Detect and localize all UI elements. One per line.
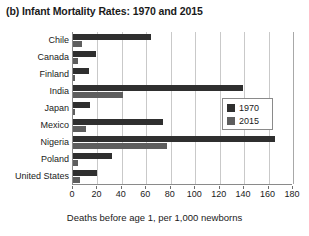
y-axis-label-india: India [49,83,69,100]
y-axis-label-finland: Finland [39,66,69,83]
y-axis-label-poland: Poland [41,151,69,168]
bar-canada-2015 [73,58,78,64]
x-tick-label-60: 60 [132,189,158,199]
bar-india-1970 [73,85,243,91]
legend-item-1970: 1970 [227,102,272,114]
bar-nigeria-2015 [73,143,167,149]
bar-group [73,134,292,151]
legend-item-2015: 2015 [227,115,272,127]
y-axis-label-mexico: Mexico [40,117,69,134]
bar-finland-1970 [73,68,89,74]
x-axis-title: Deaths before age 1, per 1,000 newborns [0,212,309,223]
legend-swatch-1970 [227,104,235,112]
bar-group [73,66,292,83]
legend-label-1970: 1970 [239,104,259,113]
legend-label-2015: 2015 [239,117,259,126]
bar-group [73,168,292,185]
bar-japan-2015 [73,109,75,115]
bar-finland-2015 [73,75,75,81]
legend-swatch-2015 [227,117,235,125]
bar-mexico-1970 [73,119,163,125]
y-axis-label-chile: Chile [48,32,69,49]
x-tick-label-80: 80 [157,189,183,199]
x-tick-label-20: 20 [83,189,109,199]
y-axis-labels: ChileCanadaFinlandIndiaJapanMexicoNigeri… [0,32,69,185]
infant-mortality-chart-figure: (b) Infant Mortality Rates: 1970 and 201… [0,0,309,236]
bar-chile-2015 [73,41,82,47]
bar-japan-1970 [73,102,90,108]
x-tick-label-120: 120 [206,189,232,199]
x-tick-label-40: 40 [108,189,134,199]
y-axis-label-japan: Japan [44,100,69,117]
y-axis-label-united-states: United States [15,168,69,185]
bar-poland-1970 [73,153,112,159]
chart-legend: 19702015 [222,98,273,130]
bar-chile-1970 [73,34,151,40]
y-axis-label-canada: Canada [37,49,69,66]
gridline [293,32,294,184]
bar-group [73,151,292,168]
bar-united-states-2015 [73,177,80,183]
y-axis-label-nigeria: Nigeria [40,134,69,151]
x-tick-label-140: 140 [230,189,256,199]
bar-canada-1970 [73,51,96,57]
bar-group [73,49,292,66]
bar-india-2015 [73,92,123,98]
bar-group [73,32,292,49]
bar-united-states-1970 [73,170,97,176]
x-tick-label-180: 180 [279,189,305,199]
x-tick-label-0: 0 [59,189,85,199]
chart-title: (b) Infant Mortality Rates: 1970 and 201… [6,5,203,17]
bar-poland-2015 [73,160,78,166]
x-tick-label-160: 160 [255,189,281,199]
bar-mexico-2015 [73,126,86,132]
x-axis-ticks: 020406080100120140160180 [72,186,292,200]
bar-nigeria-1970 [73,136,275,142]
x-tick-label-100: 100 [181,189,207,199]
